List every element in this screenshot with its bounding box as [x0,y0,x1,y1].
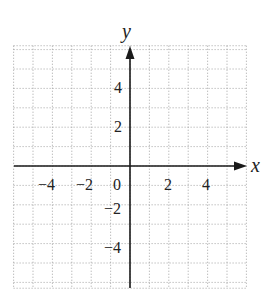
x-axis-arrow-icon [234,162,247,171]
x-tick-label: 4 [202,176,210,193]
coordinate-plane: x y −4 −2 0 2 4 4 2 −2 −4 [0,0,273,289]
x-tick-label: −4 [38,176,55,193]
x-tick-label: −2 [76,176,93,193]
y-axis-arrow-icon [126,46,135,59]
x-tick-label: 2 [164,176,172,193]
y-tick-label: −4 [104,239,121,256]
y-tick-label: −2 [104,200,121,217]
y-tick-label: 4 [114,79,122,96]
x-axis-label: x [250,154,260,176]
y-axis-label: y [120,20,131,43]
y-tick-label: 2 [114,118,122,135]
origin-label: 0 [113,176,121,193]
